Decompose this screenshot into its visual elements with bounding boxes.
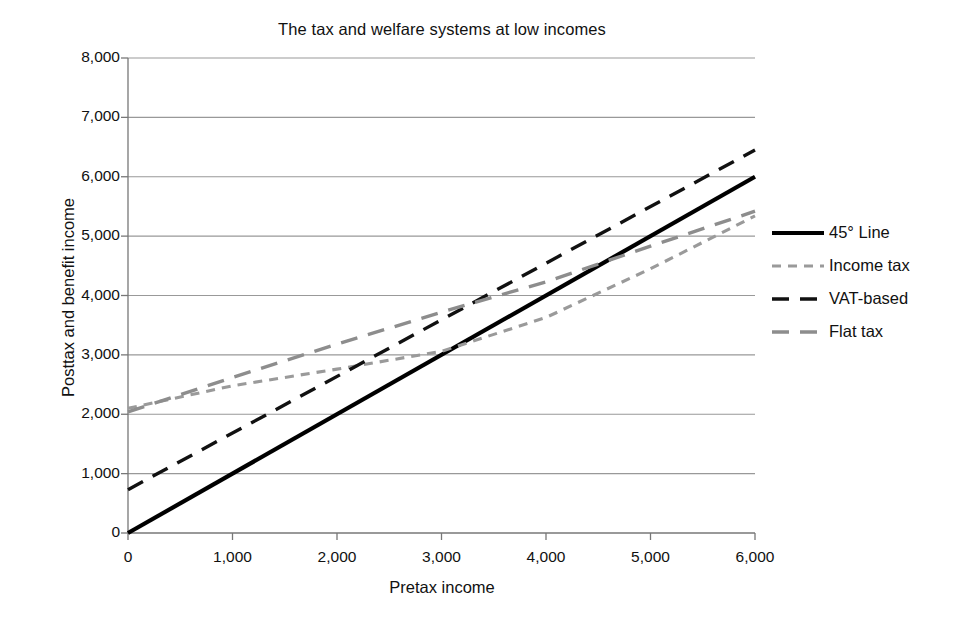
chart-legend: 45° LineIncome taxVAT-basedFlat tax	[772, 216, 910, 348]
legend-swatch-line-icon	[772, 258, 824, 274]
x-tick-label: 6,000	[710, 548, 800, 566]
legend-item[interactable]: VAT-based	[772, 282, 910, 315]
x-tick-label: 5,000	[606, 548, 696, 566]
x-tick-label: 3,000	[397, 548, 487, 566]
legend-label: VAT-based	[829, 289, 908, 308]
legend-item[interactable]: 45° Line	[772, 216, 910, 249]
axes	[121, 58, 755, 540]
legend-label: Income tax	[829, 256, 910, 275]
x-tick-label: 2,000	[292, 548, 382, 566]
legend-swatch-line-icon	[772, 225, 824, 241]
series-line-2	[128, 150, 755, 490]
legend-label: 45° Line	[829, 223, 890, 242]
data-series-group	[128, 150, 755, 533]
x-tick-label: 0	[83, 548, 173, 566]
legend-item[interactable]: Income tax	[772, 249, 910, 282]
legend-swatch-line-icon	[772, 324, 824, 340]
x-tick-label: 1,000	[188, 548, 278, 566]
chart-figure: The tax and welfare systems at low incom…	[0, 0, 964, 627]
legend-label: Flat tax	[829, 322, 883, 341]
legend-item[interactable]: Flat tax	[772, 315, 910, 348]
x-tick-label: 4,000	[501, 548, 591, 566]
legend-swatch-line-icon	[772, 291, 824, 307]
series-line-3	[128, 211, 755, 412]
gridlines	[128, 58, 755, 474]
